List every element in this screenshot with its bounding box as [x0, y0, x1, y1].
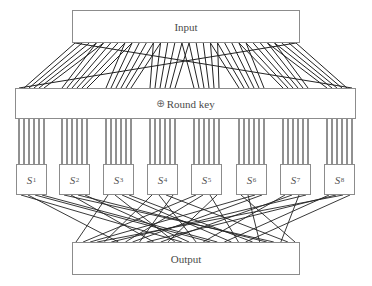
- sbox-8: S8: [324, 164, 355, 195]
- wire: [161, 195, 292, 242]
- wire: [126, 43, 153, 88]
- permutation-wires: [21, 195, 350, 242]
- wire: [77, 43, 118, 88]
- wire: [241, 195, 295, 242]
- input-block: Input: [72, 10, 300, 43]
- sbox-letter: S: [247, 174, 253, 186]
- sbox-4: S4: [147, 164, 178, 195]
- sbox-6: S6: [236, 164, 267, 195]
- sbox-index: 7: [297, 176, 301, 184]
- wire: [246, 195, 350, 242]
- wire: [281, 195, 299, 242]
- output-label: Output: [171, 253, 202, 265]
- wire: [182, 43, 194, 88]
- sbox-index: 4: [164, 176, 168, 184]
- input-label: Input: [174, 21, 197, 33]
- wire: [150, 43, 153, 88]
- sbox-letter: S: [27, 174, 33, 186]
- sbox-index: 8: [341, 176, 345, 184]
- sbox-letter: S: [291, 174, 297, 186]
- sbox-7: S7: [280, 164, 311, 195]
- wire: [248, 195, 260, 242]
- output-block: Output: [72, 242, 300, 275]
- sbox-2: S2: [59, 164, 90, 195]
- expansion-wires: [19, 43, 352, 88]
- wire: [76, 195, 108, 242]
- sbox-5: S5: [191, 164, 222, 195]
- round-key-label: Round key: [167, 98, 215, 110]
- wire: [175, 43, 189, 88]
- sbox-index: 3: [120, 176, 124, 184]
- xor-icon: ⊕: [156, 98, 164, 109]
- wire: [246, 43, 288, 88]
- sbox-input-wires: [19, 119, 352, 164]
- wire: [218, 43, 244, 88]
- sbox-letter: S: [70, 174, 76, 186]
- wire: [218, 43, 219, 88]
- sbox-letter: S: [335, 174, 341, 186]
- sbox-index: 6: [253, 176, 257, 184]
- sbox-3: S3: [103, 164, 134, 195]
- sbox-index: 1: [33, 176, 37, 184]
- sbox-1: S1: [16, 164, 47, 195]
- sbox-index: 5: [208, 176, 212, 184]
- sbox-letter: S: [114, 174, 120, 186]
- sbox-index: 2: [76, 176, 80, 184]
- wire: [203, 43, 209, 88]
- round-key-block: ⊕ Round key: [15, 88, 356, 119]
- sbox-letter: S: [158, 174, 164, 186]
- wire: [170, 43, 182, 88]
- sbox-letter: S: [202, 174, 208, 186]
- wire: [97, 195, 343, 242]
